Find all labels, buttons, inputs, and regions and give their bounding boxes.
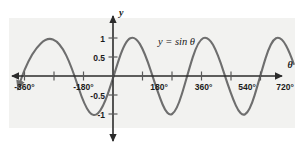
- x-tick-label-180: 180°: [150, 82, 168, 92]
- y-axis-label: y: [118, 7, 124, 18]
- y-tick-label--1: -1: [97, 110, 105, 120]
- x-tick-label-540: 540°: [238, 82, 256, 92]
- x-tick-label-720: 720°: [276, 82, 294, 92]
- x-tick-label--360: -360°: [14, 82, 35, 92]
- sine-plot: -360° -180° 180° 360° 540° 720° 1 0.5 -0…: [0, 0, 308, 150]
- y-tick-label-0.5: 0.5: [93, 53, 105, 63]
- x-tick-label-360: 360°: [195, 82, 213, 92]
- y-tick-label-1: 1: [100, 34, 105, 44]
- equation-label: y = sin θ: [157, 36, 195, 47]
- x-axis-label: θ: [287, 59, 293, 70]
- sine-graph-figure: -360° -180° 180° 360° 540° 720° 1 0.5 -0…: [0, 0, 308, 150]
- y-tick-label--0.5: -0.5: [90, 91, 105, 101]
